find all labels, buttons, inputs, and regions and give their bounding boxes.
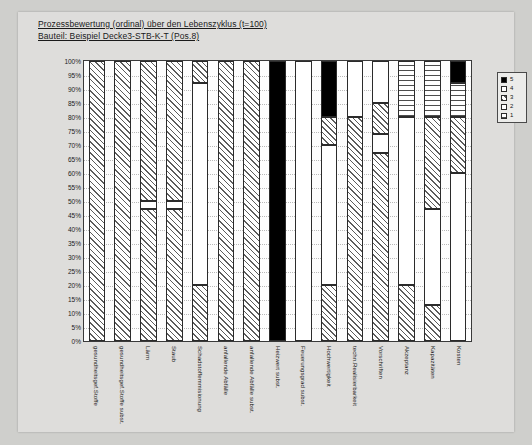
bar-segment[interactable]	[167, 209, 182, 341]
bar-column[interactable]	[394, 61, 420, 341]
y-axis-tick-label: 65%	[68, 156, 81, 163]
bar-segment[interactable]	[322, 61, 337, 117]
bar-column[interactable]	[161, 61, 187, 341]
bar-segment[interactable]	[399, 61, 414, 117]
bar-column[interactable]	[342, 61, 368, 341]
stacked-bar[interactable]	[166, 61, 183, 341]
bar-segment[interactable]	[141, 209, 156, 341]
legend-item[interactable]: 3	[501, 93, 524, 102]
bar-segment[interactable]	[425, 209, 440, 304]
y-axis-tick-label: 35%	[68, 240, 81, 247]
stacked-bar[interactable]	[243, 61, 260, 341]
bar-series-container	[84, 61, 471, 341]
legend-item[interactable]: 5	[501, 75, 524, 84]
y-axis-tick-label: 55%	[68, 184, 81, 191]
y-axis-tick-label: 25%	[68, 268, 81, 275]
stacked-bar[interactable]	[192, 61, 209, 341]
x-axis-tick-label: Schadstoffemmisionung	[197, 346, 203, 412]
bar-segment[interactable]	[451, 83, 466, 117]
x-axis-tick: anfallende Abfälle	[213, 344, 239, 444]
bar-segment[interactable]	[244, 61, 259, 341]
x-axis-tick-label: Heizwert subst.	[275, 346, 281, 389]
bar-segment[interactable]	[425, 305, 440, 341]
y-axis-tick-label: 0%	[72, 338, 81, 345]
y-axis-tick-label: 70%	[68, 142, 81, 149]
y-axis-tick-label: 10%	[68, 310, 81, 317]
stacked-bar[interactable]	[424, 61, 441, 341]
y-axis-tick-label: 50%	[68, 198, 81, 205]
chart-sheet: Prozessbewertung (ordinal) über den Lebe…	[18, 12, 514, 432]
y-axis-tick-label: 15%	[68, 296, 81, 303]
y-axis: 100%95%90%85%80%75%70%65%60%55%50%45%40%…	[56, 60, 82, 342]
bar-segment[interactable]	[425, 117, 440, 209]
legend-item[interactable]: 1	[501, 111, 524, 120]
bar-segment[interactable]	[373, 134, 388, 154]
bar-column[interactable]	[187, 61, 213, 341]
page-subtitle: Bauteil: Beispiel Decke3-STB-K-T (Pos.8)	[38, 30, 338, 42]
legend-item[interactable]: 2	[501, 102, 524, 111]
bar-segment[interactable]	[193, 83, 208, 285]
stacked-bar[interactable]	[89, 61, 106, 341]
stacked-bar[interactable]	[295, 61, 312, 341]
bar-column[interactable]	[213, 61, 239, 341]
bar-segment[interactable]	[399, 285, 414, 341]
bar-segment[interactable]	[193, 285, 208, 341]
legend-swatch	[501, 86, 507, 92]
bar-column[interactable]	[136, 61, 162, 341]
bar-segment[interactable]	[373, 103, 388, 134]
bar-segment[interactable]	[115, 61, 130, 341]
x-axis-tick-label: techn.Realisierbarkeit	[352, 346, 358, 406]
x-axis-tick: Lärm	[135, 344, 161, 444]
x-axis-tick: Hochwertigkeit	[316, 344, 342, 444]
stacked-bar[interactable]	[450, 61, 467, 341]
legend-label: 4	[510, 84, 513, 93]
bar-column[interactable]	[290, 61, 316, 341]
bar-segment[interactable]	[348, 61, 363, 117]
bar-column[interactable]	[445, 61, 471, 341]
stacked-bar[interactable]	[347, 61, 364, 341]
stacked-bar[interactable]	[398, 61, 415, 341]
bar-segment[interactable]	[348, 117, 363, 341]
bar-segment[interactable]	[167, 61, 182, 201]
stacked-bar[interactable]	[114, 61, 131, 341]
bar-segment[interactable]	[451, 61, 466, 83]
stacked-bar[interactable]	[269, 61, 286, 341]
bar-segment[interactable]	[296, 61, 311, 341]
x-axis-tick: Schadstoffemmisionung	[187, 344, 213, 444]
bar-column[interactable]	[316, 61, 342, 341]
stacked-bar[interactable]	[140, 61, 157, 341]
bar-column[interactable]	[110, 61, 136, 341]
bar-column[interactable]	[419, 61, 445, 341]
bar-segment[interactable]	[193, 61, 208, 83]
bar-column[interactable]	[265, 61, 291, 341]
bar-segment[interactable]	[451, 173, 466, 341]
stacked-bar[interactable]	[218, 61, 235, 341]
bar-segment[interactable]	[167, 201, 182, 209]
y-axis-tick-label: 5%	[72, 324, 81, 331]
bar-segment[interactable]	[322, 117, 337, 145]
bar-segment[interactable]	[141, 61, 156, 201]
bar-segment[interactable]	[399, 117, 414, 285]
x-axis-tick-label: Vorschriften	[378, 346, 384, 379]
bar-column[interactable]	[368, 61, 394, 341]
stacked-bar[interactable]	[372, 61, 389, 341]
legend: 54321	[497, 72, 527, 123]
bar-segment[interactable]	[373, 61, 388, 103]
bar-column[interactable]	[239, 61, 265, 341]
legend-item[interactable]: 4	[501, 84, 524, 93]
stacked-bar[interactable]	[321, 61, 338, 341]
bar-segment[interactable]	[425, 61, 440, 117]
bar-segment[interactable]	[90, 61, 105, 341]
bar-segment[interactable]	[270, 61, 285, 341]
bar-segment[interactable]	[141, 201, 156, 209]
x-axis-tick-label: Kosten	[456, 346, 462, 365]
x-axis-tick-label: Kapazitäten	[430, 346, 436, 379]
bar-segment[interactable]	[322, 145, 337, 285]
bar-segment[interactable]	[219, 61, 234, 341]
bar-segment[interactable]	[322, 285, 337, 341]
bar-segment[interactable]	[373, 153, 388, 341]
legend-swatch	[501, 95, 507, 101]
bar-column[interactable]	[84, 61, 110, 341]
y-axis-tick-label: 40%	[68, 226, 81, 233]
bar-segment[interactable]	[451, 117, 466, 173]
